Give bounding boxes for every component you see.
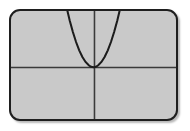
parabola-curve: [64, 11, 124, 67]
calculator-screenshot: [0, 0, 190, 131]
graph-plot-area[interactable]: [11, 11, 176, 119]
graphing-calculator-screen[interactable]: [9, 9, 178, 121]
